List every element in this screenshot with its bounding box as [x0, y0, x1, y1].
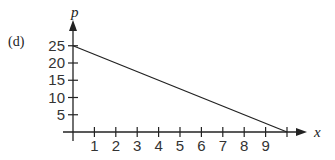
x-tick-label: 4 [154, 137, 162, 154]
panel-label: (d) [8, 34, 25, 50]
y-tick-label: 20 [48, 54, 65, 71]
chart: (d) 123456789510152025 p x [0, 0, 335, 160]
y-tick-label: 10 [48, 89, 65, 106]
y-tick-label: 15 [48, 71, 65, 88]
ticks: 123456789510152025 [48, 37, 287, 154]
x-tick-label: 1 [90, 137, 98, 154]
data-line [73, 46, 287, 132]
y-axis-label: p [70, 4, 79, 20]
x-tick-label: 6 [197, 137, 205, 154]
x-axis-arrow-icon [296, 128, 307, 136]
x-tick-label: 2 [112, 137, 120, 154]
series [73, 46, 287, 132]
y-tick-label: 25 [48, 37, 65, 54]
y-axis-arrow-icon [69, 20, 77, 31]
x-tick-label: 5 [176, 137, 184, 154]
x-axis-label: x [313, 124, 321, 140]
y-tick-label: 5 [57, 106, 65, 123]
x-tick-label: 8 [240, 137, 248, 154]
x-tick-label: 7 [219, 137, 227, 154]
x-tick-label: 9 [261, 137, 269, 154]
axes [63, 20, 307, 141]
x-tick-label: 3 [133, 137, 141, 154]
